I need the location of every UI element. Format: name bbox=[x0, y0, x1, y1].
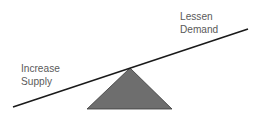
left-label-line-1: Increase bbox=[21, 62, 60, 75]
fulcrum-triangle bbox=[87, 68, 172, 109]
seesaw-diagram: Increase Supply Lessen Demand bbox=[0, 0, 261, 123]
left-label-line-2: Supply bbox=[21, 75, 60, 88]
right-label-line-2: Demand bbox=[180, 23, 218, 36]
right-label: Lessen Demand bbox=[180, 10, 218, 36]
right-label-line-1: Lessen bbox=[180, 10, 218, 23]
left-label: Increase Supply bbox=[21, 62, 60, 88]
